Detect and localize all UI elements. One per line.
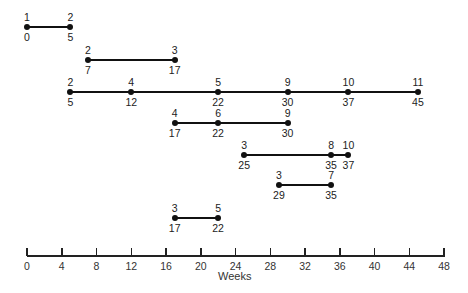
axis-tick xyxy=(409,248,411,256)
event-number: 11 xyxy=(406,76,430,88)
axis-tick xyxy=(374,248,376,256)
event-number: 9 xyxy=(276,107,300,119)
event-number: 4 xyxy=(163,107,187,119)
event-node xyxy=(415,89,421,95)
event-node xyxy=(285,120,291,126)
axis-tick-label: 12 xyxy=(119,260,143,272)
axis-tick xyxy=(131,248,133,256)
event-number: 5 xyxy=(206,76,230,88)
event-week: 22 xyxy=(206,222,230,234)
event-node xyxy=(345,89,351,95)
event-node xyxy=(128,89,134,95)
event-number: 6 xyxy=(206,107,230,119)
event-week: 30 xyxy=(276,127,300,139)
event-week: 25 xyxy=(232,159,256,171)
axis-tick-label: 4 xyxy=(50,260,74,272)
event-node xyxy=(215,215,221,221)
axis-tick-label: 44 xyxy=(397,260,421,272)
event-number: 1 xyxy=(15,11,39,23)
event-week: 17 xyxy=(163,127,187,139)
event-node xyxy=(241,152,247,158)
event-number: 5 xyxy=(206,202,230,214)
event-number: 10 xyxy=(336,139,360,151)
event-number: 9 xyxy=(276,76,300,88)
activity-line xyxy=(88,59,175,61)
axis-tick xyxy=(165,248,167,256)
event-node xyxy=(172,120,178,126)
event-number: 2 xyxy=(58,76,82,88)
event-week: 5 xyxy=(58,31,82,43)
axis-tick-label: 8 xyxy=(85,260,109,272)
event-week: 17 xyxy=(163,222,187,234)
event-number: 10 xyxy=(336,76,360,88)
axis-tick-label: 32 xyxy=(293,260,317,272)
event-number: 3 xyxy=(163,44,187,56)
event-week: 12 xyxy=(119,96,143,108)
axis-tick xyxy=(96,248,98,256)
axis-tick xyxy=(443,248,445,256)
event-node xyxy=(328,182,334,188)
activity-line xyxy=(175,217,218,219)
activity-line xyxy=(70,91,418,93)
event-node xyxy=(24,24,30,30)
event-number: 3 xyxy=(232,139,256,151)
event-node xyxy=(345,152,351,158)
axis-tick-label: 0 xyxy=(15,260,39,272)
event-number: 7 xyxy=(319,169,343,181)
axis-tick-label: 16 xyxy=(154,260,178,272)
activity-line xyxy=(279,184,331,186)
axis-tick-label: 20 xyxy=(189,260,213,272)
event-week: 0 xyxy=(15,31,39,43)
axis-tick xyxy=(26,248,28,256)
event-number: 2 xyxy=(58,11,82,23)
activity-line xyxy=(27,26,70,28)
event-node xyxy=(67,89,73,95)
event-week: 5 xyxy=(58,96,82,108)
event-node xyxy=(172,57,178,63)
axis-tick xyxy=(270,248,272,256)
activity-line xyxy=(175,122,288,124)
event-node xyxy=(172,215,178,221)
event-week: 37 xyxy=(336,96,360,108)
event-node xyxy=(328,152,334,158)
event-node xyxy=(67,24,73,30)
axis-tick xyxy=(339,248,341,256)
event-node xyxy=(215,89,221,95)
axis-tick-label: 48 xyxy=(432,260,456,272)
event-week: 22 xyxy=(206,127,230,139)
event-node xyxy=(215,120,221,126)
axis-tick xyxy=(61,248,63,256)
event-number: 4 xyxy=(119,76,143,88)
event-node xyxy=(276,182,282,188)
event-number: 2 xyxy=(76,44,100,56)
event-week: 17 xyxy=(163,64,187,76)
event-number: 3 xyxy=(267,169,291,181)
axis-tick-label: 36 xyxy=(328,260,352,272)
event-timeline-diagram: 1025273172541252293010371145417622930325… xyxy=(0,0,468,293)
axis-title: Weeks xyxy=(218,270,251,283)
event-week: 35 xyxy=(319,189,343,201)
axis-tick xyxy=(235,248,237,256)
axis-tick xyxy=(304,248,306,256)
event-week: 7 xyxy=(76,64,100,76)
event-number: 3 xyxy=(163,202,187,214)
axis-tick xyxy=(200,248,202,256)
axis-tick-label: 40 xyxy=(363,260,387,272)
event-node xyxy=(285,89,291,95)
event-week: 45 xyxy=(406,96,430,108)
event-week: 29 xyxy=(267,189,291,201)
event-node xyxy=(85,57,91,63)
axis-tick-label: 28 xyxy=(258,260,282,272)
